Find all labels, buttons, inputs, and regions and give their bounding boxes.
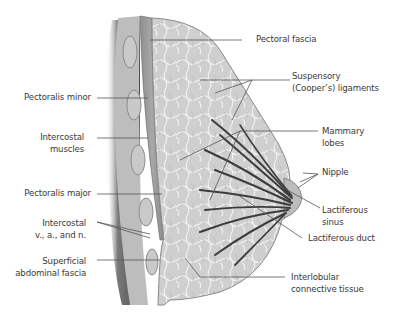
label-line: abdominal fascia (0, 268, 86, 280)
label-intercostal-muscles: Intercostal muscles (0, 132, 84, 155)
label-line: Intercostal (0, 218, 86, 230)
label-line: sinus (322, 217, 368, 229)
label-intercostal-vessels: Intercostal v., a., and n. (0, 218, 86, 241)
label-pectoral-fascia: Pectoral fascia (256, 34, 316, 46)
label-line: Mammary (322, 126, 364, 138)
label-line: Lactiferous (322, 205, 368, 217)
label-line: Pectoralis minor (0, 92, 91, 104)
label-nipple: Nipple (322, 167, 349, 179)
label-line: Interlobular (291, 272, 364, 284)
label-line: v., a., and n. (0, 230, 86, 242)
label-lactiferous-sinus: Lactiferous sinus (322, 205, 368, 228)
label-line: (Cooper’s) ligaments (292, 83, 379, 95)
label-line: connective tissue (291, 284, 364, 296)
label-pectoralis-major: Pectoralis major (0, 188, 91, 200)
label-line: Lactiferous duct (308, 233, 375, 245)
label-line: Suspensory (292, 71, 379, 83)
label-pectoralis-minor: Pectoralis minor (0, 92, 91, 104)
label-line: muscles (0, 144, 84, 156)
label-interlobular-connective-tissue: Interlobular connective tissue (291, 272, 364, 295)
label-line: Intercostal (0, 132, 84, 144)
label-line: Nipple (322, 167, 349, 179)
label-line: Pectoralis major (0, 188, 91, 200)
label-suspensory-ligaments: Suspensory (Cooper’s) ligaments (292, 71, 379, 94)
label-superficial-abdominal-fascia: Superficial abdominal fascia (0, 256, 86, 279)
label-line: lobes (322, 138, 364, 150)
label-mammary-lobes: Mammary lobes (322, 126, 364, 149)
label-line: Pectoral fascia (256, 34, 316, 46)
label-line: Superficial (0, 256, 86, 268)
label-lactiferous-duct: Lactiferous duct (308, 233, 375, 245)
